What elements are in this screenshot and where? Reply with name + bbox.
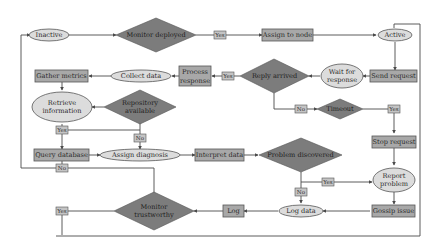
node-inactive[interactable]: Inactive [29,29,69,41]
node-process-response[interactable]: Process response [179,66,211,86]
node-problem-discovered-label: Problem discovered [267,151,334,159]
node-gossip-issue[interactable]: Gossip issue [372,205,415,217]
node-send-request[interactable]: Send request [370,70,417,82]
edge-label-monitor-yes: Yes [214,31,226,39]
svg-text:Yes: Yes [56,127,67,133]
node-active[interactable]: Active [378,29,412,41]
svg-text:No: No [297,106,306,112]
svg-text:Yes: Yes [388,106,399,112]
svg-text:problem: problem [380,180,409,188]
svg-text:Yes: Yes [322,179,333,185]
edge-label-trustworthy-yes: Yes [56,207,68,215]
node-send-request-label: Send request [371,72,416,80]
svg-text:Report: Report [383,172,406,180]
edge-label-problem-yes: Yes [322,178,334,186]
svg-text:response: response [180,77,210,85]
node-interpret-data[interactable]: Interpret data [195,149,244,161]
edge-label-reply-yes: Yes [222,72,234,80]
node-assign-to-node-label: Assign to node [262,31,312,39]
svg-text:Repository: Repository [122,99,158,107]
svg-text:information: information [42,107,82,115]
svg-text:No: No [58,165,67,171]
node-assign-diagnosis[interactable]: Assign diagnosis [100,149,180,161]
svg-text:No: No [297,189,306,195]
node-monitor-trustworthy[interactable]: Monitor trustworthy [114,192,194,230]
node-repository-available[interactable]: Repository available [104,90,176,124]
node-log-label: Log [227,207,240,215]
flowchart: Inactive Monitor deployed Yes Assign to … [0,0,438,249]
svg-text:Yes: Yes [222,73,233,79]
svg-text:Yes: Yes [214,32,225,38]
node-stop-request-label: Stop request [373,138,416,146]
node-report-problem[interactable]: Report problem [373,168,415,192]
node-timeout[interactable]: Timeout [317,99,363,119]
node-log-data[interactable]: Log data [279,205,323,217]
edge-trust-yes [62,211,114,235]
node-interpret-data-label: Interpret data [196,151,243,159]
svg-text:No: No [136,135,145,141]
edge-label-problem-no: No [295,188,307,196]
edge-label-repository-no: No [134,134,146,142]
node-wait-for-response[interactable]: Wait for response [321,64,363,88]
node-assign-to-node[interactable]: Assign to node [262,29,313,41]
edge-label-query-no: No [56,164,68,172]
svg-text:Process: Process [182,68,209,76]
node-gossip-issue-label: Gossip issue [373,207,415,215]
node-query-database[interactable]: Query database [34,149,89,161]
node-monitor-deployed[interactable]: Monitor deployed [116,18,196,52]
node-gather-metrics-label: Gather metrics [36,72,87,80]
node-reply-arrived-label: Reply arrived [252,72,298,80]
node-timeout-label: Timeout [326,105,354,113]
svg-text:Yes: Yes [56,208,67,214]
node-assign-diagnosis-label: Assign diagnosis [111,151,168,159]
edge-problem-report [301,172,372,182]
node-collect-data[interactable]: Collect data [111,70,171,82]
edge-query-trust [62,161,154,193]
svg-text:response: response [327,76,357,84]
edge-label-reply-no: No [295,105,307,113]
svg-text:trustworthy: trustworthy [134,211,174,219]
node-active-label: Active [384,31,406,39]
node-query-database-label: Query database [35,151,88,159]
node-monitor-deployed-label: Monitor deployed [126,31,186,39]
node-retrieve-information[interactable]: Retrieve information [32,92,92,122]
node-stop-request[interactable]: Stop request [372,136,416,148]
svg-text:Monitor: Monitor [141,203,169,211]
node-reply-arrived[interactable]: Reply arrived [240,59,309,93]
edges [21,24,420,236]
node-collect-data-label: Collect data [121,72,161,80]
node-log[interactable]: Log [223,205,244,217]
svg-text:Wait for: Wait for [329,68,356,76]
svg-text:available: available [125,107,155,115]
node-inactive-label: Inactive [36,31,63,39]
node-problem-discovered[interactable]: Problem discovered [259,138,342,172]
svg-text:Retrieve: Retrieve [48,99,76,107]
edge-label-repository-yes: Yes [56,126,68,134]
node-log-data-label: Log data [286,207,315,215]
edge-label-timeout-yes: Yes [388,105,400,113]
node-gather-metrics[interactable]: Gather metrics [35,70,88,82]
